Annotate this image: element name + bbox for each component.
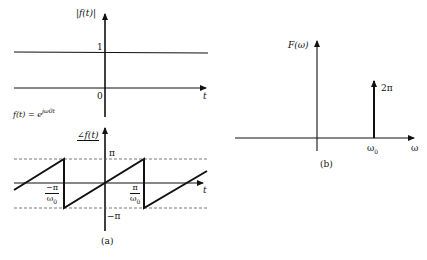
formula-lhs: f(t) = e [13, 110, 42, 119]
tick-numerator: −π [45, 184, 59, 194]
phase-xlabel: t [203, 186, 207, 195]
magnitude-xlabel: t [203, 92, 207, 101]
pi-label: π [109, 149, 115, 158]
tick-denominator: ω0 [130, 194, 140, 205]
magnitude-level-line [14, 52, 208, 53]
pi-over-omega0-tick: π ω0 [130, 184, 140, 205]
figure-canvas [0, 0, 427, 260]
panel-a-caption: (a) [101, 237, 113, 246]
level-one-label: 1 [97, 43, 103, 52]
phase-ylabel: ∠f(t) [77, 131, 99, 141]
neg-pi-over-omega0-tick: −π ω0 [45, 184, 59, 205]
tick-numerator: π [130, 184, 140, 194]
magnitude-ylabel: |f(t)| [76, 9, 96, 18]
spectrum-ylabel: F(ω) [288, 41, 309, 50]
spectrum-plot [235, 41, 414, 151]
origin-label: 0 [97, 92, 103, 101]
magnitude-plot [14, 14, 208, 117]
neg-pi-label: −π [107, 212, 120, 221]
formula-exponent: jω0t [42, 107, 55, 114]
spectrum-xlabel: ω [411, 144, 418, 153]
tick-denominator: ω0 [45, 194, 59, 205]
impulse-label: 2π [381, 84, 393, 93]
formula: f(t) = ejω0t [13, 108, 55, 119]
panel-b-caption: (b) [320, 160, 333, 169]
omega0-label: ω0 [367, 144, 378, 155]
